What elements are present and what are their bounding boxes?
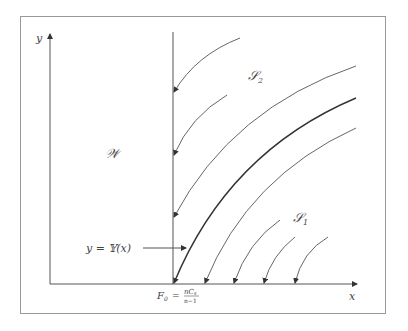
region-w-label: 𝒲 [105,146,122,161]
svg-text:=: = [172,291,180,301]
phase-diagram: y x 𝒲 𝒮2 𝒮1 y = 𝕐(x) F0 = nCs n−1 [0,0,408,331]
trajectory-curve [234,220,280,283]
x-axis-label: x [349,290,356,303]
y-axis-label: y [35,32,43,45]
separatrix-label: y = 𝕐(x) [85,242,131,255]
svg-text:nCs: nCs [184,288,197,296]
svg-text:n−1: n−1 [184,297,197,304]
origin-label: F0 = nCs n−1 [156,288,199,304]
region-s1-label: 𝒮1 [293,210,308,227]
trajectory-curve [295,237,328,283]
trajectory-curve [174,95,227,155]
frame [21,17,386,314]
trajectory-curve [264,237,295,283]
svg-text:F0: F0 [156,290,168,302]
trajectory-curve [174,38,240,92]
region-s2-label: 𝒮2 [248,68,263,85]
trajectory-curve [205,128,356,283]
